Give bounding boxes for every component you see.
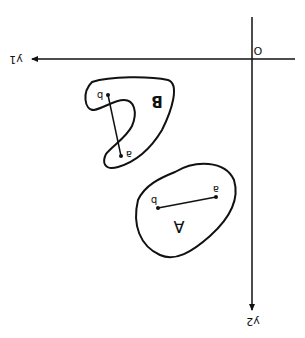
point-b-a [119, 154, 123, 158]
point-b-b-label: b [97, 90, 103, 101]
region-a-label: A [173, 217, 184, 236]
y1-label: y1 [9, 53, 23, 66]
segment-a [158, 197, 216, 208]
convexity-diagram: O y1 y2 B b a A b a [0, 0, 305, 338]
point-a-a-label: a [213, 184, 219, 195]
point-a-b-label: b [151, 195, 157, 206]
region-b-label: B [151, 92, 162, 110]
y2-label: y2 [246, 315, 260, 328]
region-a-outline [136, 164, 236, 257]
point-b-b [106, 93, 110, 97]
point-b-a-label: a [126, 149, 132, 160]
segment-b [108, 95, 121, 156]
origin-label: O [253, 44, 262, 57]
